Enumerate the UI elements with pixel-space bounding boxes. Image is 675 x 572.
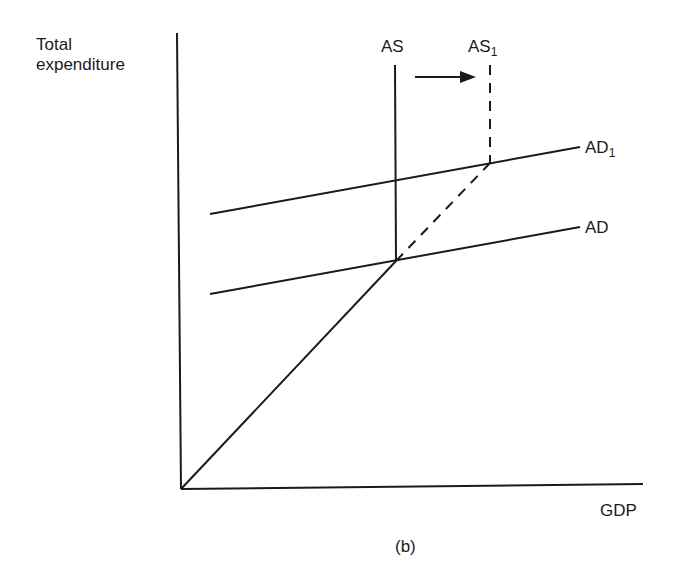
y-axis-label-line1: Total: [36, 35, 125, 55]
ad1-label-subscript: 1: [609, 146, 616, 160]
as1-label-subscript: 1: [491, 45, 498, 59]
figure-caption: (b): [395, 538, 416, 557]
as-curve: [395, 65, 396, 261]
x-axis: [181, 484, 643, 489]
as-label: AS: [381, 38, 404, 57]
as1-label: AS1: [468, 38, 497, 59]
y-axis: [177, 33, 181, 489]
as1-label-text: AS: [468, 37, 491, 56]
supply-path-line: [181, 261, 396, 489]
y-axis-label: Total expenditure: [36, 35, 125, 75]
ad-label: AD: [585, 219, 609, 238]
shift-arrow-icon: [415, 71, 476, 83]
as-ad-diagram: Total expenditure GDP (b) AS AS1 AD1 AD: [0, 0, 675, 572]
ad1-label-text: AD: [585, 138, 609, 157]
x-axis-label: GDP: [600, 502, 637, 521]
as-label-text: AS: [381, 37, 404, 56]
y-axis-label-line2: expenditure: [36, 55, 125, 75]
ad1-label: AD1: [585, 139, 615, 160]
diagram-canvas: [0, 0, 675, 572]
ad-label-text: AD: [585, 218, 609, 237]
